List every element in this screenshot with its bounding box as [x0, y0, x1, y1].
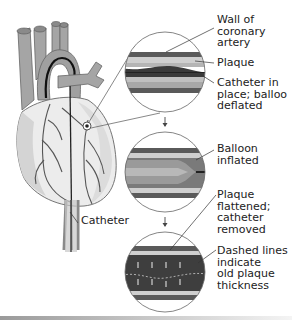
label-balloon-inflated: Balloon inflated	[217, 143, 259, 166]
label-catheter-in-place: Catheter in place; balloo deflated	[217, 77, 292, 112]
panel-3-flattened	[120, 230, 210, 320]
label-catheter: Catheter	[81, 215, 129, 227]
bottom-divider	[0, 316, 292, 320]
down-arrow-1	[163, 117, 168, 127]
angioplasty-diagram: Wall of coronary artery Plaque Catheter …	[0, 0, 292, 320]
label-plaque: Plaque	[217, 57, 254, 69]
panel-2-inflated	[120, 130, 210, 220]
down-arrow-2	[163, 217, 168, 227]
panel-1-deflated	[120, 30, 210, 120]
label-dashed-lines: Dashed lines indicate old plaque thickne…	[217, 245, 288, 291]
label-plaque-flattened: Plaque flattened; catheter removed	[217, 189, 271, 235]
label-wall-of-coronary-artery: Wall of coronary artery	[217, 14, 266, 49]
